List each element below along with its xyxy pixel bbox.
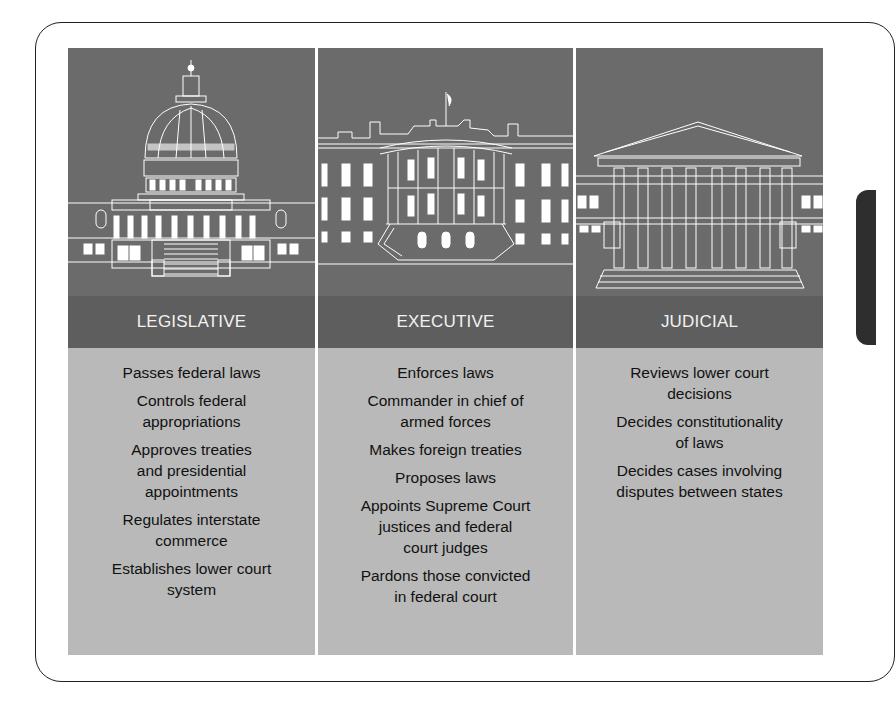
branch-header: LEGISLATIVE <box>68 296 315 348</box>
power-item: Decides cases involving disputes between… <box>586 460 813 502</box>
power-item: Pardons those convicted in federal court <box>328 565 563 607</box>
supreme-court-building-icon <box>576 48 823 296</box>
power-item: Makes foreign treaties <box>328 439 563 460</box>
branch-header: JUDICIAL <box>576 296 823 348</box>
power-item: Appoints Supreme Court justices and fede… <box>328 495 563 558</box>
power-item: Proposes laws <box>328 467 563 488</box>
white-house-icon <box>318 48 573 296</box>
power-item: Enforces laws <box>328 362 563 383</box>
power-item: Decides constitutionality of laws <box>586 411 813 453</box>
edge-tab <box>856 190 876 345</box>
branch-column-judicial: JUDICIAL Reviews lower court decisions D… <box>576 48 823 655</box>
power-item: Passes federal laws <box>78 362 305 383</box>
capitol-building-icon <box>68 48 315 296</box>
power-item: Approves treaties and presidential appoi… <box>78 439 305 502</box>
branch-column-legislative: LEGISLATIVE Passes federal laws Controls… <box>68 48 315 655</box>
power-item: Reviews lower court decisions <box>586 362 813 404</box>
power-item: Regulates interstate commerce <box>78 509 305 551</box>
power-item: Commander in chief of armed forces <box>328 390 563 432</box>
power-item: Controls federal appropriations <box>78 390 305 432</box>
power-item: Establishes lower court system <box>78 558 305 600</box>
branch-column-executive: EXECUTIVE Enforces laws Commander in chi… <box>318 48 573 655</box>
branch-powers-list: Enforces laws Commander in chief of arme… <box>318 348 573 655</box>
branch-powers-list: Passes federal laws Controls federal app… <box>68 348 315 655</box>
branch-header: EXECUTIVE <box>318 296 573 348</box>
branch-powers-list: Reviews lower court decisions Decides co… <box>576 348 823 655</box>
